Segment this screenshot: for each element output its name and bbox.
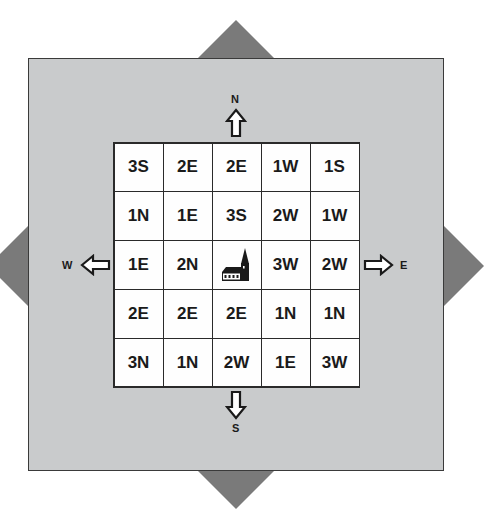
south-label: S: [232, 422, 239, 434]
grid-cell-r1-c4[interactable]: 1W: [261, 143, 311, 193]
grid-cell-r4-c5[interactable]: 1N: [310, 289, 360, 339]
east-label: E: [400, 259, 407, 271]
grid-cell-r5-c3[interactable]: 2W: [212, 338, 262, 388]
east-triangle-decoration: [444, 226, 484, 306]
east-arrow-icon: [362, 254, 394, 276]
south-arrow-icon: [225, 390, 247, 420]
grid-cell-r3-c4[interactable]: 3W: [261, 240, 311, 290]
grid-cell-r2-c5[interactable]: 1W: [310, 191, 360, 241]
grid-cell-r1-c1[interactable]: 3S: [114, 143, 164, 193]
grid-cell-r1-c2[interactable]: 2E: [163, 143, 213, 193]
north-label: N: [231, 93, 239, 105]
church-icon: [220, 247, 254, 283]
south-triangle-decoration: [198, 471, 274, 509]
grid-cell-r1-c5[interactable]: 1S: [310, 143, 360, 193]
west-arrow-icon: [80, 254, 112, 276]
grid-cell-r4-c3[interactable]: 2E: [212, 289, 262, 339]
north-triangle-decoration: [198, 20, 274, 58]
grid-cell-r3-c5[interactable]: 2W: [310, 240, 360, 290]
grid-cell-r5-c5[interactable]: 3W: [310, 338, 360, 388]
north-arrow-icon: [225, 108, 247, 138]
grid-cell-r3-c1[interactable]: 1E: [114, 240, 164, 290]
grid-cell-r2-c2[interactable]: 1E: [163, 191, 213, 241]
grid-cell-r5-c2[interactable]: 1N: [163, 338, 213, 388]
grid-cell-r5-c4[interactable]: 1E: [261, 338, 311, 388]
grid-cell-r5-c1[interactable]: 3N: [114, 338, 164, 388]
west-triangle-decoration: [0, 226, 28, 306]
west-label: W: [62, 259, 72, 271]
grid-cell-r4-c2[interactable]: 2E: [163, 289, 213, 339]
grid-cell-r3-c2[interactable]: 2N: [163, 240, 213, 290]
grid-cell-center[interactable]: [212, 240, 262, 290]
grid-cell-r4-c1[interactable]: 2E: [114, 289, 164, 339]
move-grid: 3S 2E 2E 1W 1S 1N 1E 3S 2W 1W 1E 2N 3W 2…: [113, 142, 360, 388]
grid-cell-r2-c3[interactable]: 3S: [212, 191, 262, 241]
grid-cell-r2-c1[interactable]: 1N: [114, 191, 164, 241]
grid-cell-r2-c4[interactable]: 2W: [261, 191, 311, 241]
grid-cell-r4-c4[interactable]: 1N: [261, 289, 311, 339]
grid-cell-r1-c3[interactable]: 2E: [212, 143, 262, 193]
